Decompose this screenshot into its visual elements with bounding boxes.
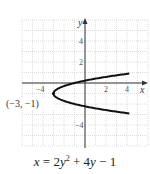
tick-label-x-neg4: −4: [36, 85, 45, 94]
y-axis-label: y: [77, 17, 83, 28]
parabola-chart: y x −4 2 4 4 2 −4 (−3, −1): [0, 0, 150, 174]
tick-label-x-4: 4: [125, 85, 129, 94]
equation-caption: x = 2y2 + 4y − 1: [0, 154, 150, 170]
eq-part: = 2: [40, 154, 60, 169]
eq-tail: − 1: [96, 154, 116, 169]
tick-label-y-4: 4: [79, 37, 83, 46]
tick-label-y-2: 2: [79, 58, 83, 67]
x-axis-label: x: [139, 84, 145, 95]
tick-label-y-neg4: −4: [75, 121, 84, 130]
vertex-point: [52, 92, 55, 95]
vertex-label: (−3, −1): [6, 98, 39, 110]
eq-part-mid: + 4: [70, 154, 90, 169]
y-axis-arrow-icon: [83, 18, 88, 24]
tick-label-x-2: 2: [104, 85, 108, 94]
